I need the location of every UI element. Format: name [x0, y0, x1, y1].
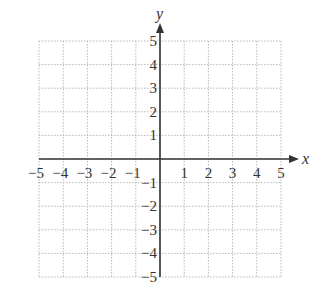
y-axis-label: y: [154, 5, 164, 23]
x-tick-label: −5: [28, 165, 44, 181]
axes: [39, 23, 299, 277]
coordinate-plane: −5−4−3−2−112345−5−4−3−2−112345 x y: [0, 0, 322, 298]
x-tick-label: −3: [76, 165, 92, 181]
y-tick-label: −3: [141, 222, 157, 238]
x-tick-label: 1: [180, 165, 188, 181]
y-tick-label: 1: [150, 127, 158, 143]
y-tick-label: −5: [141, 269, 157, 285]
x-axis-arrow-icon: [289, 155, 299, 163]
x-tick-label: 5: [277, 165, 285, 181]
y-tick-label: 4: [150, 57, 158, 73]
y-tick-label: −2: [141, 198, 157, 214]
x-tick-label: 4: [253, 165, 261, 181]
y-tick-label: −4: [141, 245, 157, 261]
x-tick-label: −4: [52, 165, 68, 181]
y-axis-arrow-icon: [156, 23, 164, 33]
y-tick-label: 5: [150, 33, 158, 49]
x-tick-label: −2: [101, 165, 117, 181]
x-tick-label: −1: [125, 165, 141, 181]
y-tick-label: 3: [150, 80, 158, 96]
y-tick-label: −1: [141, 175, 157, 191]
y-tick-label: 2: [150, 104, 158, 120]
x-tick-label: 2: [205, 165, 213, 181]
x-tick-label: 3: [229, 165, 237, 181]
x-axis-label: x: [301, 150, 309, 167]
